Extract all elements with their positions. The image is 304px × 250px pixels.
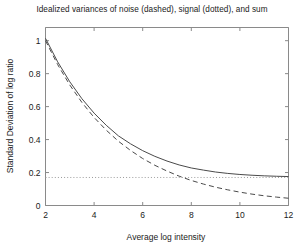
tick-labels-group: 2468101200.20.40.60.81 [29,36,294,220]
x-tick-label: 12 [284,210,294,220]
x-axis-title: Average log intensity [127,232,207,242]
x-tick-label: 8 [189,210,194,220]
axes-group [46,28,289,206]
x-tick-label: 4 [92,210,97,220]
x-tick-label: 6 [140,210,145,220]
ticks-group [46,28,289,206]
y-tick-label: 0.2 [29,168,41,178]
y-tick-label: 0.8 [29,69,41,79]
chart-figure: Idealized variances of noise (dashed), s… [0,0,304,250]
plot-box [46,28,289,206]
curves-group [46,38,289,198]
y-tick-label: 0 [36,201,41,211]
x-tick-label: 2 [43,210,48,220]
curve-noise [46,41,289,199]
y-axis-title: Standard Deviation of log ratio [5,59,15,174]
curve-sum [46,38,289,176]
x-tick-label: 10 [235,210,245,220]
y-tick-label: 0.6 [29,102,41,112]
plot-canvas: 2468101200.20.40.60.81 Average log inten… [0,0,304,250]
y-tick-label: 0.4 [29,135,41,145]
y-tick-label: 1 [36,36,41,46]
